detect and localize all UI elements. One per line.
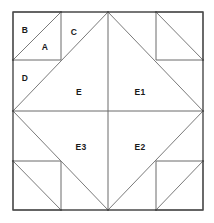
vertex-dot xyxy=(202,160,204,162)
quilt-block-diagram: BACDEE1E3E2 xyxy=(0,0,214,223)
piece-label-e1: E1 xyxy=(135,87,146,97)
piece-label-d: D xyxy=(22,73,28,83)
piece-label-e2: E2 xyxy=(135,142,146,152)
piece-label-e3: E3 xyxy=(76,142,87,152)
piece-label-a: A xyxy=(42,42,48,52)
vertex-dot xyxy=(12,110,14,112)
block-drawing-canvas: BACDEE1E3E2 xyxy=(0,0,214,223)
vertex-dot xyxy=(155,11,157,13)
vertex-dot xyxy=(202,110,204,112)
vertex-dot xyxy=(155,209,157,211)
vertex-dot xyxy=(60,11,62,13)
vertex-dot xyxy=(107,209,109,211)
vertex-dot xyxy=(12,160,14,162)
vertex-dot xyxy=(60,209,62,211)
vertex-dot xyxy=(202,59,204,61)
vertex-dot xyxy=(107,11,109,13)
piece-label-c: C xyxy=(71,27,77,37)
piece-label-e: E xyxy=(76,87,82,97)
piece-label-b: B xyxy=(22,25,28,35)
vertex-dot xyxy=(12,59,14,61)
